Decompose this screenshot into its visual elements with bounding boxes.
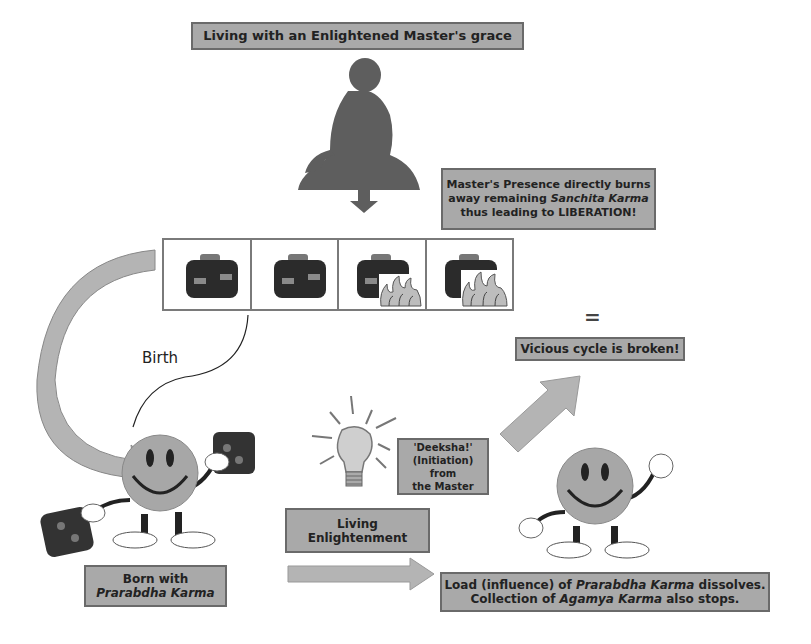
right-arrow-icon [288,558,438,590]
deeksha-line2: (Initiation) from [399,454,487,480]
master-presence-box: Master's Presence directly burns away re… [441,168,656,230]
fire-icon [379,274,423,308]
vicious-cycle-text: Vicious cycle is broken! [521,342,680,356]
deeksha-line1: 'Deeksha!' [413,441,472,454]
load-line1-pre: Load (influence) of [444,578,576,592]
master-silhouette-icon [290,55,450,205]
sanchita-karma-term: Sanchita Karma [551,192,649,205]
karma-bag-cell-burning [427,240,513,309]
deeksha-line3: the Master [412,480,473,493]
karma-bag-cell-burning [339,240,427,309]
suitcase-icon [182,250,242,302]
vicious-cycle-box: Vicious cycle is broken! [515,337,685,361]
light-bulb-icon [300,392,390,497]
title-box: Living with an Enlightened Master's grac… [191,22,524,50]
master-presence-line2: away remaining [448,192,550,205]
birth-connector-line [125,315,255,430]
smiley-liberated [505,440,695,560]
birth-label: Birth [142,349,178,367]
load-line1-post: dissolves. [694,578,765,592]
born-with-line1: Born with [123,572,189,586]
fire-icon [461,270,511,308]
smiley-with-karma-bags [35,428,295,553]
agamya-karma-term: Agamya Karma [560,592,663,606]
load-line2-post: also stops. [662,592,739,606]
title-text: Living with an Enlightened Master's grac… [203,29,511,43]
karma-bag-cell [164,240,252,309]
master-presence-line1: Master's Presence directly burns [447,178,651,192]
equals-sign: = [584,305,601,329]
living-enlightenment-line2: Enlightenment [308,531,407,545]
load-line2-pre: Collection of [471,592,560,606]
suitcase-icon [270,250,330,302]
karma-bag-cell [252,240,340,309]
prarabdha-karma-term: Prarabdha Karma [96,586,214,600]
deeksha-box: 'Deeksha!' (Initiation) from the Master [397,438,489,495]
master-presence-line3: thus leading to LIBERATION! [460,206,636,220]
living-enlightenment-line1: Living [337,517,378,531]
prarabdha-karma-term: Prarabdha Karma [576,578,694,592]
load-dissolves-box: Load (influence) of Prarabdha Karma diss… [440,572,770,612]
living-enlightenment-box: Living Enlightenment [285,508,430,553]
sanchita-karma-strip [162,238,514,311]
born-with-box: Born with Prarabdha Karma [84,565,227,607]
